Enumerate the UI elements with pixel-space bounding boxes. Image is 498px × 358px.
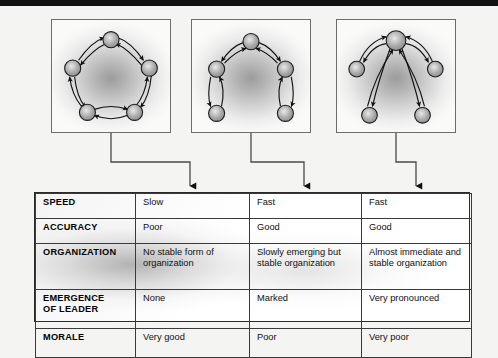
- connector-box2-to-col2: [251, 133, 304, 186]
- cell-accuracy-chain: Good: [250, 219, 362, 244]
- cell-organization-chain: Slowly emerging but stable organization: [250, 244, 362, 290]
- row-label-line-1: EMERGENCE: [43, 293, 104, 303]
- cell-speed-chain: Fast: [250, 194, 362, 219]
- connector-box1-to-col1: [111, 133, 190, 186]
- network-node: [103, 32, 119, 48]
- table-row: ORGANIZATION No stable form of organizat…: [36, 244, 472, 290]
- table-row: SPEED Slow Fast Fast: [36, 194, 472, 219]
- network-node: [209, 105, 225, 121]
- wheel-network-nodes: [349, 31, 443, 123]
- cell-speed-circle: Slow: [136, 194, 250, 219]
- connector-box3-to-col3: [396, 133, 416, 186]
- circle-network-svg: [52, 20, 170, 132]
- cell-leader-wheel: Very pronounced: [362, 290, 472, 329]
- network-node: [209, 61, 225, 77]
- network-node: [141, 60, 157, 76]
- chain-network-svg: [192, 20, 310, 132]
- network-node: [127, 104, 143, 120]
- table-row: MORALE Very good Poor Very poor: [36, 329, 472, 358]
- network-hub-node: [386, 31, 406, 51]
- network-node: [277, 61, 293, 77]
- network-node: [65, 60, 81, 76]
- cell-leader-circle: None: [136, 290, 250, 329]
- cell-morale-wheel: Very poor: [362, 329, 472, 358]
- top-rule: [0, 0, 498, 6]
- diagram-chain-network: [191, 19, 311, 133]
- network-node: [349, 61, 365, 77]
- row-label-speed: SPEED: [36, 194, 136, 219]
- row-label-accuracy: ACCURACY: [36, 219, 136, 244]
- network-node: [415, 107, 431, 123]
- cell-accuracy-circle: Poor: [136, 219, 250, 244]
- table-row: ACCURACY Poor Good Good: [36, 219, 472, 244]
- circle-network-nodes: [65, 32, 158, 121]
- cell-leader-chain: Marked: [250, 290, 362, 329]
- network-node: [362, 107, 378, 123]
- row-label-organization: ORGANIZATION: [36, 244, 136, 290]
- diagram-circle-network: [51, 19, 171, 133]
- network-node: [277, 105, 293, 121]
- wheel-network-svg: [337, 20, 455, 132]
- cell-organization-circle: No stable form of organization: [136, 244, 250, 290]
- row-label-emergence-of-leader: EMERGENCE OF LEADER: [36, 290, 136, 329]
- network-node: [427, 61, 443, 77]
- chain-network-nodes: [209, 34, 294, 122]
- cell-morale-chain: Poor: [250, 329, 362, 358]
- cell-speed-wheel: Fast: [362, 194, 472, 219]
- network-node: [243, 34, 259, 50]
- diagram-wheel-network: [336, 19, 456, 133]
- table-row: EMERGENCE OF LEADER None Marked Very pro…: [36, 290, 472, 329]
- cell-morale-circle: Very good: [136, 329, 250, 358]
- comparison-table-grid: SPEED Slow Fast Fast ACCURACY Poor Good …: [35, 193, 472, 358]
- row-label-line-2: OF LEADER: [43, 304, 98, 314]
- cell-organization-wheel: Almost immediate and stable organization: [362, 244, 472, 290]
- comparison-table: SPEED Slow Fast Fast ACCURACY Poor Good …: [34, 192, 470, 322]
- cell-accuracy-wheel: Good: [362, 219, 472, 244]
- network-node: [79, 104, 95, 120]
- row-label-morale: MORALE: [36, 329, 136, 358]
- connector-elbows: [111, 133, 416, 186]
